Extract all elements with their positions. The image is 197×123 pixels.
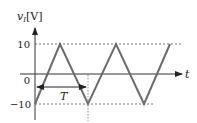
tick-label-10: 10	[17, 39, 30, 50]
x-axis-label: t	[185, 68, 190, 81]
y-axis-label: vI[V]	[17, 10, 43, 24]
triangle-wave-diagram: vI[V] t 10 0 −10 T	[0, 0, 197, 123]
tick-label-neg10: −10	[10, 99, 31, 110]
period-label: T	[60, 90, 69, 103]
tick-label-0: 0	[24, 75, 30, 86]
